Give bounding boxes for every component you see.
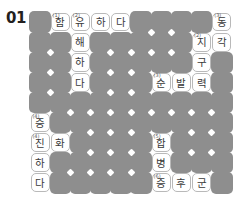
block-square — [171, 32, 192, 53]
crossword-cell-block — [151, 113, 171, 133]
crossword-cell-block — [212, 173, 232, 193]
crossword-cell-block — [70, 173, 90, 193]
answer-letter: 화 — [50, 133, 70, 153]
crossword-cell-block — [111, 92, 131, 112]
block-square — [29, 52, 50, 73]
crossword-cell-block — [50, 173, 70, 193]
block-square — [70, 172, 91, 193]
crossword-cell-open[interactable]: 구 — [192, 52, 212, 72]
crossword-cell-open[interactable]: (4)진 — [30, 133, 50, 153]
crossword-cell-block — [151, 12, 171, 32]
answer-letter: 합 — [151, 133, 171, 153]
block-square — [211, 72, 232, 93]
crossword-cell-block — [212, 92, 232, 112]
crossword-cell-open[interactable]: 군 — [192, 173, 212, 193]
answer-letter: 증 — [151, 173, 171, 193]
crossword-cell-block — [171, 153, 191, 173]
crossword-cell-open[interactable]: 후 — [171, 173, 191, 193]
crossword-cell-block — [91, 52, 111, 72]
answer-letter: 동 — [212, 12, 232, 32]
block-square — [29, 32, 50, 53]
crossword-cell-block — [212, 113, 232, 133]
block-square — [29, 72, 50, 93]
crossword-cell-block — [192, 12, 212, 32]
crossword-cell-open[interactable]: 화 — [50, 133, 70, 153]
crossword-cell-block — [111, 32, 131, 52]
crossword-cell-open[interactable]: (2)유 — [70, 12, 90, 32]
block-square — [29, 11, 50, 32]
block-square — [191, 92, 212, 113]
block-square — [191, 152, 212, 173]
crossword-cell-open[interactable]: (1)함 — [50, 12, 70, 32]
block-square — [171, 11, 192, 32]
crossword-cell-block — [91, 153, 111, 173]
answer-letter: 하 — [30, 153, 50, 173]
crossword-cell-block — [171, 32, 191, 52]
block-square — [211, 172, 232, 193]
crossword-cell-open[interactable]: (6)증 — [151, 173, 171, 193]
block-square — [110, 152, 131, 173]
crossword-cell-open[interactable]: 하 — [70, 52, 90, 72]
crossword-cell-block — [212, 52, 232, 72]
crossword-cell-open[interactable]: 하 — [91, 12, 111, 32]
block-square — [50, 152, 71, 173]
crossword-cell-open[interactable]: (5)합 — [151, 133, 171, 153]
crossword-cell-block — [131, 52, 151, 72]
block-square — [50, 72, 71, 93]
crossword-cell-block — [91, 72, 111, 92]
crossword-cell-open[interactable]: (2)지 — [192, 32, 212, 52]
block-square — [110, 132, 131, 153]
block-square — [211, 112, 232, 133]
crossword-cell-block — [50, 153, 70, 173]
crossword-cell-open[interactable]: 병 — [151, 153, 171, 173]
answer-letter: 유 — [70, 12, 90, 32]
crossword-cell-block — [212, 133, 232, 153]
crossword-cell-open[interactable]: 하 — [30, 153, 50, 173]
crossword-cell-open[interactable]: 발 — [171, 72, 191, 92]
crossword-cell-open[interactable]: 력 — [192, 72, 212, 92]
crossword-puzzle: 01 (1)함(2)유하다(3)동해(2)지각하구다(3)순발력(4)증(4)진… — [0, 0, 241, 205]
crossword-cell-block — [91, 113, 111, 133]
block-square — [191, 11, 212, 32]
crossword-cell-open[interactable]: 해 — [70, 32, 90, 52]
answer-letter: 함 — [50, 12, 70, 32]
crossword-cell-block — [192, 92, 212, 112]
block-square — [70, 112, 91, 133]
crossword-cell-block — [212, 72, 232, 92]
block-square — [50, 172, 71, 193]
crossword-cell-block — [131, 72, 151, 92]
crossword-cell-block — [70, 153, 90, 173]
block-square — [29, 92, 50, 113]
answer-letter: 각 — [212, 32, 232, 52]
crossword-cell-block — [171, 52, 191, 72]
answer-letter: 후 — [171, 173, 191, 193]
block-square — [90, 52, 111, 73]
block-square — [211, 132, 232, 153]
crossword-cell-block — [30, 52, 50, 72]
answer-letter: 증 — [30, 113, 50, 133]
block-square — [110, 112, 131, 133]
crossword-cell-open[interactable]: 각 — [212, 32, 232, 52]
crossword-cell-open[interactable]: (3)순 — [151, 72, 171, 92]
crossword-cell-open[interactable]: 다 — [30, 173, 50, 193]
crossword-cell-open[interactable]: 다 — [70, 72, 90, 92]
crossword-cell-block — [50, 72, 70, 92]
answer-letter: 진 — [30, 133, 50, 153]
block-square — [130, 72, 151, 93]
crossword-cell-block — [131, 32, 151, 52]
block-square — [151, 112, 172, 133]
block-square — [90, 152, 111, 173]
crossword-cell-open[interactable]: (3)동 — [212, 12, 232, 32]
crossword-cell-open[interactable]: (4)증 — [30, 113, 50, 133]
crossword-cell-block — [171, 12, 191, 32]
crossword-cell-block — [151, 52, 171, 72]
block-square — [130, 172, 151, 193]
crossword-cell-block — [50, 32, 70, 52]
block-square — [171, 152, 192, 173]
answer-letter: 다 — [111, 12, 131, 32]
crossword-cell-block — [70, 133, 90, 153]
block-square — [70, 152, 91, 173]
crossword-cell-block — [111, 153, 131, 173]
crossword-cell-block — [171, 133, 191, 153]
crossword-cell-open[interactable]: 다 — [111, 12, 131, 32]
